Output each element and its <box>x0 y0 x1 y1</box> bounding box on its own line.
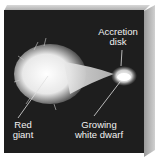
diagram-box: Accretion disk Red giant Growing white d… <box>0 0 156 159</box>
mass-transfer-stream <box>64 62 114 94</box>
diagram-panel: Accretion disk Red giant Growing white d… <box>4 10 144 153</box>
accretion-disk-label-line2: disk <box>92 37 144 47</box>
red-giant-label-line2: giant <box>8 130 38 140</box>
accretion-disk-label: Accretion disk <box>92 27 144 47</box>
box-side-face <box>144 5 155 157</box>
red-giant-label: Red giant <box>8 120 38 140</box>
accretion-disk-pointer <box>121 50 122 66</box>
accretion-disk <box>111 66 137 86</box>
white-dwarf-pointer <box>94 82 120 116</box>
white-dwarf-label: Growing white dwarf <box>62 120 136 140</box>
white-dwarf-label-line2: white dwarf <box>62 130 136 140</box>
